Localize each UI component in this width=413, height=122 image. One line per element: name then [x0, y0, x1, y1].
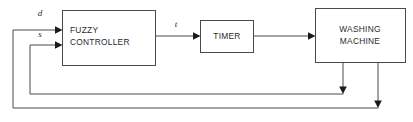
- fuzzy-controller-label-line2: CONTROLLER: [70, 37, 130, 47]
- washing-machine-label-line1: WASHING: [339, 24, 380, 34]
- signal-label-t: t: [175, 19, 178, 29]
- feedback-outer-arrow-head-down: [374, 101, 382, 109]
- wire-timer-to-washing-machine: [253, 32, 316, 40]
- fuzzy-controller-label-line1: FUZZY: [70, 25, 98, 35]
- wire-fuzzy-controller-to-timer: [155, 32, 201, 40]
- block-diagram-canvas: FUZZY CONTROLLER TIMER WASHING MACHINE d…: [0, 0, 413, 122]
- timer-label: TIMER: [213, 31, 240, 41]
- signal-label-s: s: [38, 29, 42, 39]
- feedback-inner-arrow-head-down: [339, 87, 347, 95]
- washing-machine-block: WASHING MACHINE: [316, 9, 406, 63]
- controller-to-timer-arrow-head: [193, 32, 201, 40]
- washing-machine-label-line2: MACHINE: [340, 36, 381, 46]
- timer-block: TIMER: [201, 21, 254, 53]
- feedback-outer-arrow-head-into-controller: [55, 26, 63, 34]
- signal-label-d: d: [38, 8, 43, 18]
- feedback-inner-arrow-head-into-controller: [55, 41, 63, 49]
- block-diagram-svg: FUZZY CONTROLLER TIMER WASHING MACHINE d…: [0, 0, 413, 122]
- timer-to-machine-arrow-head: [308, 32, 316, 40]
- fuzzy-controller-block: FUZZY CONTROLLER: [63, 11, 156, 66]
